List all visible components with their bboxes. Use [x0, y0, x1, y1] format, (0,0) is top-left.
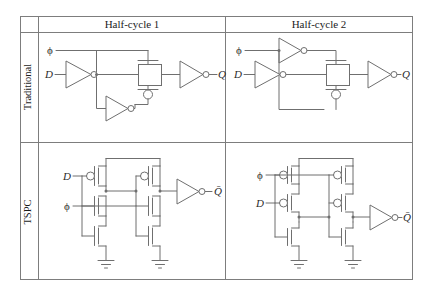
transmission-gate-a	[139, 65, 162, 86]
qbar-output-label-d: Q̄	[403, 211, 411, 223]
node-dot-c2	[135, 190, 138, 193]
input-inverter-bubble-b	[280, 72, 286, 78]
table-grid	[21, 17, 413, 280]
output-inverter-bubble-a	[203, 72, 209, 78]
row-label-tspc: TSPC	[22, 199, 33, 224]
data-input-label-a: D	[44, 68, 53, 80]
clock-inverter-bubble-a	[128, 106, 134, 112]
node-dot-d3	[352, 216, 355, 219]
clk-input-label-a: ϕ	[47, 44, 53, 56]
node-dot-a1	[95, 73, 98, 76]
bottom-gate-bubble-a	[144, 90, 153, 99]
clk-input-label-c: ϕ	[64, 200, 70, 212]
circuit-comparison-table: Half-cycle 1 Half-cycle 2 Traditional TS…	[20, 16, 413, 280]
row-label-traditional: Traditional	[22, 64, 33, 110]
node-dot-c3	[159, 190, 162, 193]
q-output-label-b: Q	[402, 68, 410, 80]
bottom-gate-bubble-b	[332, 90, 341, 99]
column-header-half-cycle-1: Half-cycle 1	[105, 18, 160, 30]
q-output-label-a: Q	[218, 68, 226, 80]
data-input-label-b: D	[233, 68, 242, 80]
table-outer-border	[21, 17, 413, 280]
figure-page: Half-cycle 1 Half-cycle 2 Traditional TS…	[0, 0, 433, 291]
figure-canvas: Half-cycle 1 Half-cycle 2 Traditional TS…	[20, 16, 413, 280]
output-inverter-bubble-c	[199, 189, 205, 195]
output-inverter-bubble-b	[391, 72, 397, 78]
transmission-gate-b	[327, 65, 350, 86]
node-dot-d1	[298, 216, 301, 219]
clk-input-label-d: ϕ	[257, 169, 263, 181]
data-input-label-c: D	[62, 170, 71, 182]
node-dot-c1	[105, 190, 108, 193]
output-inverter-bubble-d	[392, 215, 398, 221]
node-dot-d2	[328, 216, 331, 219]
clk-input-label-b: ϕ	[236, 44, 242, 56]
qbar-output-label-c: Q̄	[214, 185, 222, 197]
data-input-label-d: D	[255, 197, 264, 209]
clock-inverter-bubble-b	[301, 48, 307, 54]
column-header-half-cycle-2: Half-cycle 2	[292, 18, 347, 30]
